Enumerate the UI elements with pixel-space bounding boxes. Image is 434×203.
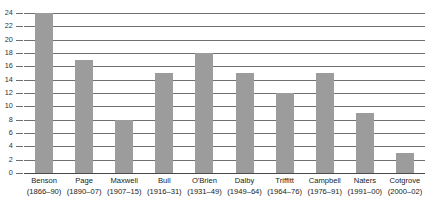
x-axis-labels: Benson(1866–90)Page(1890–07)Maxwell(1907… [24, 176, 425, 203]
gridline [24, 173, 425, 174]
x-axis-label-name: Cotgrove [385, 176, 425, 187]
bars [24, 13, 425, 173]
x-axis-label-name: Campbell [305, 176, 345, 187]
x-axis-label-name: Dalby [225, 176, 265, 187]
x-axis-label-name: Page [64, 176, 104, 187]
bar[interactable] [115, 120, 133, 173]
bar-chart: 242220181614121086420 Benson(1866–90)Pag… [0, 0, 434, 203]
bar[interactable] [316, 73, 334, 173]
y-axis-tick-label: 0 [9, 169, 13, 176]
y-axis-tick [16, 173, 23, 174]
x-axis-label-years: (1976–91) [305, 187, 345, 198]
bar[interactable] [75, 60, 93, 173]
bar-slot [265, 13, 305, 173]
x-axis-label-years: (2000–02) [385, 187, 425, 198]
y-axis-tick-label: 22 [5, 23, 13, 30]
x-axis-label-name: Bull [144, 176, 184, 187]
y-axis-tick-label: 8 [9, 116, 13, 123]
plot-area: 242220181614121086420 [24, 13, 425, 173]
x-axis-label-years: (1916–31) [144, 187, 184, 198]
x-axis-label-years: (1931–49) [184, 187, 224, 198]
y-axis-tick-label: 4 [9, 143, 13, 150]
y-axis-tick [16, 93, 23, 94]
y-axis-tick [16, 26, 23, 27]
y-axis-tick [16, 106, 23, 107]
x-axis-label-years: (1907–15) [104, 187, 144, 198]
x-axis-label: Bull(1916–31) [144, 176, 184, 197]
y-axis-tick [16, 13, 23, 14]
bar-slot [24, 13, 64, 173]
bar-slot [144, 13, 184, 173]
y-axis-tick-label: 10 [5, 103, 13, 110]
y-axis-tick-label: 14 [5, 76, 13, 83]
y-axis-tick-label: 24 [5, 9, 13, 16]
y-axis-tick-label: 2 [9, 156, 13, 163]
y-axis-tick-label: 18 [5, 49, 13, 56]
y-axis-tick [16, 53, 23, 54]
x-axis-label-name: Maxwell [104, 176, 144, 187]
x-axis-label-years: (1866–90) [24, 187, 64, 198]
x-axis-label: Triffitt(1964–76) [265, 176, 305, 197]
bar-slot [385, 13, 425, 173]
y-axis-tick [16, 80, 23, 81]
x-axis-label-years: (1890–07) [64, 187, 104, 198]
bar-slot [184, 13, 224, 173]
y-axis-tick [16, 66, 23, 67]
bar[interactable] [236, 73, 254, 173]
bar[interactable] [155, 73, 173, 173]
y-axis-tick-label: 12 [5, 89, 13, 96]
bar[interactable] [195, 53, 213, 173]
bar-slot [345, 13, 385, 173]
y-axis-tick [16, 133, 23, 134]
x-axis-label: O'Brien(1931–49) [184, 176, 224, 197]
x-axis-label: Page(1890–07) [64, 176, 104, 197]
x-axis-label-name: O'Brien [184, 176, 224, 187]
bar-slot [225, 13, 265, 173]
bar-slot [305, 13, 345, 173]
x-axis-label-years: (1949–64) [225, 187, 265, 198]
bar-slot [104, 13, 144, 173]
y-axis-tick [16, 120, 23, 121]
x-axis-label: Naters(1991–00) [345, 176, 385, 197]
x-axis-label: Dalby(1949–64) [225, 176, 265, 197]
y-axis-tick-label: 20 [5, 36, 13, 43]
bar[interactable] [276, 93, 294, 173]
bar[interactable] [396, 153, 414, 173]
x-axis-label-name: Naters [345, 176, 385, 187]
y-axis-tick-label: 16 [5, 63, 13, 70]
y-axis-tick [16, 146, 23, 147]
bar[interactable] [35, 13, 53, 173]
x-axis-label: Benson(1866–90) [24, 176, 64, 197]
x-axis-label-years: (1964–76) [265, 187, 305, 198]
x-axis-label-name: Benson [24, 176, 64, 187]
x-axis-label: Cotgrove(2000–02) [385, 176, 425, 197]
x-axis-label-years: (1991–00) [345, 187, 385, 198]
x-axis-label-name: Triffitt [265, 176, 305, 187]
bar[interactable] [356, 113, 374, 173]
bar-slot [64, 13, 104, 173]
x-axis-label: Campbell(1976–91) [305, 176, 345, 197]
x-axis-label: Maxwell(1907–15) [104, 176, 144, 197]
y-axis-tick-label: 6 [9, 129, 13, 136]
y-axis-tick [16, 160, 23, 161]
y-axis-tick [16, 40, 23, 41]
